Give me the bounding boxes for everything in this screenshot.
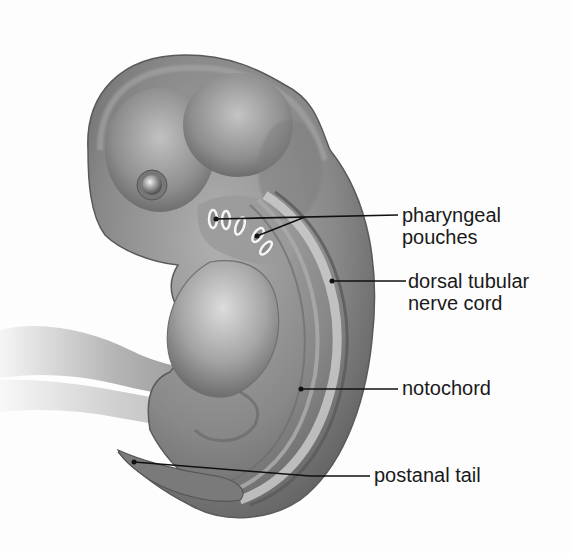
diagram-canvas: pharyngeal pouches dorsal tubular nerve …	[0, 0, 573, 553]
label-notochord: notochord	[402, 377, 491, 399]
label-line: dorsal tubular	[408, 270, 529, 292]
label-line: notochord	[402, 377, 491, 399]
eye	[137, 170, 167, 200]
label-line: postanal tail	[374, 464, 481, 486]
label-line: nerve cord	[408, 292, 529, 314]
label-line: pouches	[402, 226, 501, 248]
label-dorsal-tubular-nerve-cord: dorsal tubular nerve cord	[408, 270, 529, 314]
label-postanal-tail: postanal tail	[374, 464, 481, 486]
label-line: pharyngeal	[402, 204, 501, 226]
label-pharyngeal-pouches: pharyngeal pouches	[402, 204, 501, 248]
